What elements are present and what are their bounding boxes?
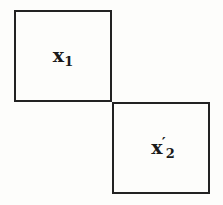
label-base: x: [53, 44, 64, 66]
label-prime: ′: [162, 134, 166, 152]
box-x2-prime-label: x′2: [114, 136, 208, 161]
label-subscript: 1: [64, 54, 73, 69]
box-x1: x1: [14, 10, 112, 102]
label-subscript: 2: [166, 146, 175, 161]
box-x1-label: x1: [16, 44, 110, 69]
box-x2-prime: x′2: [112, 102, 210, 194]
label-base: x: [151, 136, 162, 158]
